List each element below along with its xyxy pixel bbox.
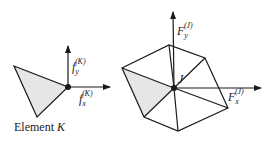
- element-k-triangle: [14, 66, 68, 117]
- fx-k-label: fx(K): [79, 92, 97, 108]
- node-k: [65, 84, 71, 90]
- fy-j-sup: (J): [184, 21, 193, 30]
- node-j-label: J: [178, 73, 183, 85]
- element-k-caption: Element K: [14, 120, 65, 135]
- fx-j-sub: x: [235, 97, 239, 106]
- caption-symbol: K: [57, 120, 65, 134]
- node-j: [171, 85, 177, 91]
- fy-k-label: fy(K): [72, 60, 90, 76]
- fx-k-sup: (K): [82, 89, 93, 98]
- fy-k-sub: y: [75, 67, 79, 76]
- fy-k-sup: (K): [75, 57, 86, 66]
- fy-j-sub: y: [184, 31, 188, 40]
- diagram: fy(K) fx(K) Element K Fy(J) J Fx(J): [0, 0, 273, 145]
- caption-prefix: Element: [14, 120, 54, 134]
- fx-k-sub: x: [82, 99, 86, 108]
- shaded-element: [122, 68, 174, 117]
- fy-j-label: Fy(J): [177, 24, 197, 40]
- fx-j-label: Fx(J): [228, 90, 248, 106]
- fx-j-sup: (J): [235, 87, 244, 96]
